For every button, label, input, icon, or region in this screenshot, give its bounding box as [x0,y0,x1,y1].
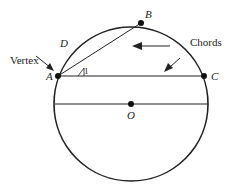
chords-arrowhead-left-icon [132,42,142,50]
diagram-canvas: Vertex Chords D 1 A B C O [0,0,232,196]
angle-1-label: 1 [84,66,89,76]
chords-arrowhead-diag-icon [164,63,173,72]
point-o-label: O [127,109,135,121]
point-b [138,20,144,26]
chords-arrow-diag [170,58,180,67]
point-o [128,101,134,107]
point-c [201,73,207,79]
point-c-label: C [211,70,219,82]
vertex-label: Vertex [10,54,39,66]
chords-label: Chords [190,36,222,48]
circle-diagram: Vertex Chords D 1 A B C O [0,0,232,196]
chord-ab [58,23,141,76]
arc-point-d-label: D [59,37,68,49]
point-a-label: A [45,70,53,82]
point-a [55,73,61,79]
point-b-label: B [145,8,152,20]
